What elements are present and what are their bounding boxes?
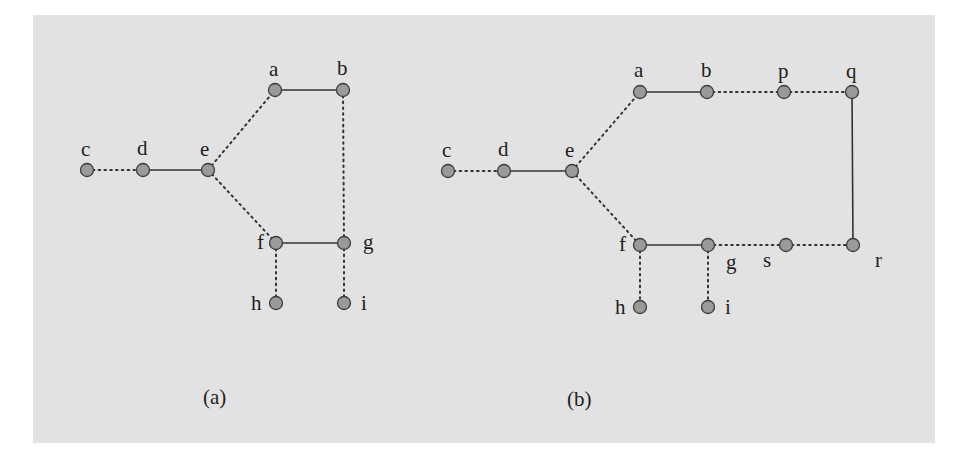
label-s: s: [763, 248, 771, 272]
edge-e-f: [208, 170, 276, 243]
node-r: [847, 239, 860, 252]
edge-q-r: [852, 92, 853, 245]
node-q: [846, 86, 859, 99]
caption-b: (b): [567, 387, 592, 411]
label-c: c: [81, 137, 90, 161]
edge-e-a: [208, 90, 275, 170]
label-f: f: [619, 232, 626, 256]
label-f: f: [257, 230, 264, 254]
node-f: [270, 237, 283, 250]
node-h: [634, 301, 647, 314]
node-s: [780, 239, 793, 252]
node-b: [337, 84, 350, 97]
label-h: h: [251, 291, 262, 315]
label-q: q: [846, 59, 857, 83]
node-f: [634, 239, 647, 252]
label-i: i: [725, 295, 731, 319]
node-g: [338, 237, 351, 250]
label-d: d: [137, 136, 148, 160]
node-a: [269, 84, 282, 97]
node-e: [566, 165, 579, 178]
label-b: b: [337, 56, 348, 80]
node-i: [702, 301, 715, 314]
node-i: [338, 297, 351, 310]
label-g: g: [726, 250, 737, 274]
node-d: [498, 165, 511, 178]
label-d: d: [498, 137, 509, 161]
graph-figure: c d e a b f g h i (a): [0, 0, 963, 471]
edge-b-g: [343, 90, 344, 243]
node-c: [442, 165, 455, 178]
node-b: [701, 86, 714, 99]
caption-a: (a): [203, 385, 226, 409]
panel-a: c d e a b f g h i (a): [81, 56, 375, 409]
label-a: a: [634, 58, 644, 82]
node-c: [81, 164, 94, 177]
node-e: [202, 164, 215, 177]
label-e: e: [565, 138, 574, 162]
edge-e-f: [572, 171, 640, 245]
label-h: h: [615, 295, 626, 319]
node-g: [702, 239, 715, 252]
node-h: [270, 297, 283, 310]
label-r: r: [875, 248, 882, 272]
node-p: [778, 86, 791, 99]
label-e: e: [200, 137, 209, 161]
label-g: g: [363, 230, 374, 254]
label-a: a: [269, 57, 279, 81]
edge-e-a: [572, 92, 640, 171]
panel-b: c d e a b p q f g s r h i (b): [442, 58, 883, 411]
label-c: c: [442, 138, 451, 162]
node-a: [634, 86, 647, 99]
label-b: b: [701, 58, 712, 82]
label-i: i: [361, 291, 367, 315]
node-d: [137, 164, 150, 177]
label-p: p: [778, 59, 789, 83]
